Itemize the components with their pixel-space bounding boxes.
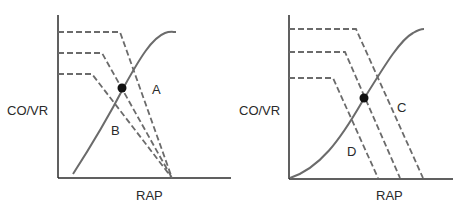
diagram-canvas — [0, 0, 462, 216]
left-annotation-a: A — [152, 83, 161, 96]
right-x-axis-label: RAP — [376, 189, 403, 202]
right-annotation-c: C — [397, 101, 406, 114]
right-equilibrium-point — [360, 94, 369, 103]
right-panel — [289, 15, 453, 179]
left-vr-curve-mid — [58, 53, 172, 178]
left-y-axis-label: CO/VR — [7, 104, 48, 117]
left-annotation-b: B — [111, 124, 120, 137]
left-x-axis-label: RAP — [136, 189, 163, 202]
left-panel — [58, 15, 231, 178]
right-vr-curve-low — [289, 78, 378, 178]
right-annotation-d: D — [347, 145, 356, 158]
right-vr-curve-mid — [289, 52, 400, 178]
right-y-axis-label: CO/VR — [239, 104, 280, 117]
left-equilibrium-point — [118, 84, 127, 93]
